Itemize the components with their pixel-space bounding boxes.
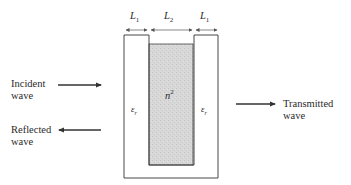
center-refractive-index-label: n2 [165,86,174,102]
left-slab-permittivity-label: εr [131,103,137,119]
dimension-label-left: L1 [130,10,139,26]
dimension-label-middle: L2 [164,10,173,26]
transmitted-wave-label: Transmitted wave [283,98,333,122]
dimension-label-right: L1 [200,10,209,26]
diagram-canvas [0,0,351,185]
center-medium-region [149,44,193,165]
incident-wave-label: Incident wave [11,78,45,102]
reflected-wave-label: Reflected wave [11,124,51,148]
right-slab-permittivity-label: εr [201,103,207,119]
